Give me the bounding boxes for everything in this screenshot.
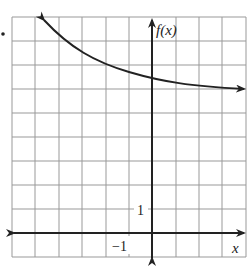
grid	[12, 17, 246, 257]
function-graph: f(x) x 1 −1	[0, 0, 247, 266]
x-axis-label: x	[231, 240, 239, 256]
x-tick-label: −1	[112, 239, 127, 254]
y-tick-label: 1	[137, 203, 144, 218]
function-curve	[44, 20, 244, 89]
bullet-dot	[1, 32, 5, 36]
y-axis-label: f(x)	[156, 22, 177, 39]
